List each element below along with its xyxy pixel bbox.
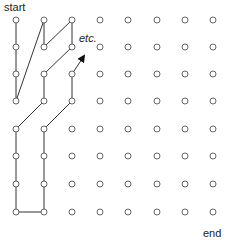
grid-point bbox=[125, 71, 131, 77]
grid-point bbox=[41, 71, 47, 77]
grid-point bbox=[154, 209, 160, 215]
grid-point bbox=[41, 153, 47, 159]
grid-point bbox=[125, 17, 131, 23]
grid-point bbox=[182, 126, 188, 132]
grid-point bbox=[69, 181, 75, 187]
grid-point bbox=[125, 126, 131, 132]
grid-point bbox=[97, 181, 103, 187]
grid-point bbox=[13, 98, 19, 104]
grid-point bbox=[13, 209, 19, 215]
grid-point bbox=[41, 17, 47, 23]
grid-point bbox=[154, 181, 160, 187]
grid-point bbox=[125, 181, 131, 187]
grid-points bbox=[13, 17, 216, 215]
grid-point bbox=[69, 98, 75, 104]
grid-point bbox=[210, 181, 216, 187]
grid-point bbox=[154, 44, 160, 50]
grid-point bbox=[69, 209, 75, 215]
grid-point bbox=[97, 209, 103, 215]
grid-point bbox=[210, 153, 216, 159]
grid-point bbox=[69, 71, 75, 77]
grid-point bbox=[154, 71, 160, 77]
end-label: end bbox=[203, 227, 221, 239]
grid-point bbox=[210, 98, 216, 104]
grid-point bbox=[154, 153, 160, 159]
grid-point bbox=[69, 44, 75, 50]
grid-point bbox=[97, 44, 103, 50]
start-label: start bbox=[4, 1, 25, 13]
grid-point bbox=[154, 98, 160, 104]
grid-point bbox=[125, 44, 131, 50]
grid-point bbox=[13, 153, 19, 159]
grid-point bbox=[69, 17, 75, 23]
grid-point bbox=[97, 71, 103, 77]
grid-point bbox=[182, 44, 188, 50]
grid-point bbox=[13, 17, 19, 23]
grid-point bbox=[41, 98, 47, 104]
grid-point bbox=[154, 17, 160, 23]
grid-point bbox=[13, 181, 19, 187]
grid-point bbox=[41, 209, 47, 215]
grid-point bbox=[182, 71, 188, 77]
grid-point bbox=[13, 71, 19, 77]
etc-label: etc. bbox=[79, 32, 97, 44]
grid-point bbox=[97, 126, 103, 132]
grid-point bbox=[210, 44, 216, 50]
grid-point bbox=[182, 181, 188, 187]
grid-point bbox=[182, 153, 188, 159]
grid-point bbox=[69, 153, 75, 159]
grid-point bbox=[182, 98, 188, 104]
grid-point bbox=[13, 126, 19, 132]
grid-point bbox=[210, 126, 216, 132]
grid-point bbox=[210, 17, 216, 23]
grid-point bbox=[97, 153, 103, 159]
grid-point bbox=[69, 126, 75, 132]
grid-point bbox=[182, 17, 188, 23]
grid-point bbox=[13, 44, 19, 50]
grid-point bbox=[154, 126, 160, 132]
grid-point bbox=[41, 181, 47, 187]
grid-point bbox=[41, 126, 47, 132]
grid-point bbox=[125, 98, 131, 104]
grid-point bbox=[210, 209, 216, 215]
grid-point bbox=[97, 17, 103, 23]
grid-point bbox=[125, 153, 131, 159]
grid-point bbox=[125, 209, 131, 215]
grid-point bbox=[210, 71, 216, 77]
grid-point bbox=[97, 98, 103, 104]
scan-order-diagram: start etc. end bbox=[0, 0, 229, 247]
grid-point bbox=[41, 44, 47, 50]
grid-point bbox=[182, 209, 188, 215]
